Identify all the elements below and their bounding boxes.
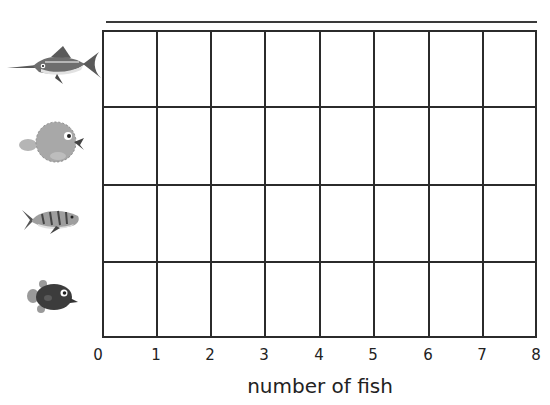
x-tick-label: 0 xyxy=(88,346,108,364)
swordfish-icon xyxy=(5,44,103,86)
x-axis-label: number of fish xyxy=(0,374,550,398)
round-dark-fish-icon xyxy=(26,278,82,316)
x-tick-label: 1 xyxy=(146,346,166,364)
x-tick-label: 2 xyxy=(200,346,220,364)
x-tick-label: 6 xyxy=(418,346,438,364)
x-tick-label: 3 xyxy=(254,346,274,364)
grid-line-horizontal xyxy=(102,184,537,186)
pufferfish-icon xyxy=(18,118,88,166)
top-rule xyxy=(106,21,537,23)
x-tick-label: 4 xyxy=(309,346,329,364)
x-tick-label: 7 xyxy=(472,346,492,364)
x-tick-label: 8 xyxy=(526,346,546,364)
striped-fish-icon xyxy=(20,206,84,236)
x-tick-label: 5 xyxy=(363,346,383,364)
grid-line-horizontal xyxy=(102,261,537,263)
grid-line-horizontal xyxy=(102,106,537,108)
